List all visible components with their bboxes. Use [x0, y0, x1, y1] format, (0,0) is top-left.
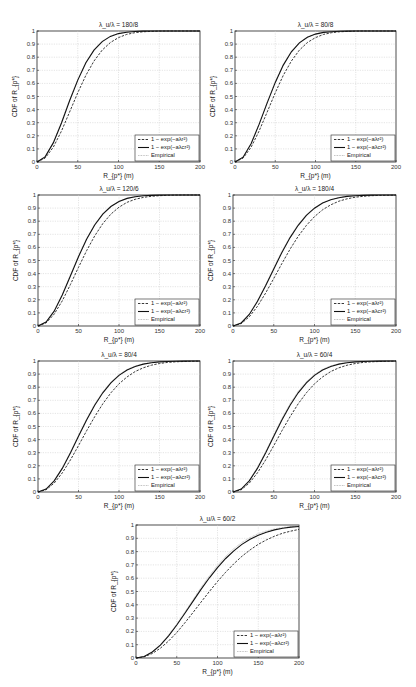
y-tick-label: 0.3: [28, 450, 37, 456]
y-tick-label: 0.9: [27, 41, 36, 47]
x-tick-label: 150: [350, 328, 361, 334]
y-tick-label: 0.7: [223, 397, 232, 403]
y-tick-label: 0.1: [223, 476, 232, 482]
legend-label: 1 − exp(−aλr²): [347, 136, 383, 142]
x-tick-label: 0: [36, 328, 40, 334]
y-tick-label: 0.1: [28, 476, 37, 482]
figure: 05010015020000.10.20.30.40.50.60.70.80.9…: [0, 0, 416, 687]
legend: 1 − exp(−aλr²)1 − exp(−aλcr²)Empirical: [331, 135, 395, 161]
legend-label: 1 − exp(−aλr²): [347, 466, 383, 472]
legend-label: 1 − exp(−aλcr²): [151, 474, 190, 480]
y-tick-label: 1: [228, 192, 232, 198]
x-axis-label: R_{p*} (m): [300, 172, 330, 180]
x-tick-label: 200: [391, 164, 402, 170]
x-tick-label: 0: [36, 494, 40, 500]
legend-label: 1 − exp(−aλcr²): [347, 474, 386, 480]
y-tick-label: 0.2: [28, 463, 37, 469]
y-axis-label: CDF of R_{p*}: [12, 239, 20, 281]
x-tick-label: 100: [113, 164, 124, 170]
legend-label: 1 − exp(−aλcr²): [151, 308, 190, 314]
y-tick-label: 0.1: [225, 146, 234, 152]
legend: 1 − exp(−aλr²)1 − exp(−aλcr²)Empirical: [331, 465, 395, 491]
x-tick-label: 150: [154, 164, 165, 170]
y-tick-label: 0.3: [126, 615, 135, 621]
x-tick-label: 50: [74, 164, 81, 170]
y-tick-label: 1: [33, 192, 37, 198]
x-tick-label: 0: [134, 660, 138, 666]
y-axis-label: CDF of R_{p*}: [11, 75, 19, 117]
x-axis-label: R_{p*} (m): [104, 336, 134, 344]
chart-title: λ_u/λ = 180/4: [295, 185, 335, 193]
y-tick-label: 0.8: [27, 54, 36, 60]
legend-label: 1 − exp(−aλr²): [347, 300, 383, 306]
subplot-2: 05010015020000.10.20.30.40.50.60.70.80.9…: [209, 21, 402, 180]
subplot-1: 05010015020000.10.20.30.40.50.60.70.80.9…: [11, 21, 206, 180]
legend-label: 1 − exp(−aλr²): [151, 466, 187, 472]
legend-label: 1 − exp(−aλr²): [151, 300, 187, 306]
y-tick-label: 0.2: [225, 133, 234, 139]
x-axis-label: R_{p*} (m): [104, 502, 134, 510]
y-tick-label: 0.7: [225, 67, 234, 73]
x-tick-label: 150: [253, 660, 264, 666]
y-tick-label: 0.5: [223, 258, 232, 264]
legend-label: 1 − exp(−aλcr²): [347, 308, 386, 314]
y-tick-label: 1: [32, 28, 36, 34]
y-tick-label: 0.1: [223, 310, 232, 316]
y-axis-label: CDF of R_{p*}: [207, 239, 215, 281]
x-tick-label: 0: [231, 494, 235, 500]
y-tick-label: 0.9: [28, 371, 37, 377]
subplot-6: 05010015020000.10.20.30.40.50.60.70.80.9…: [207, 351, 402, 510]
y-tick-label: 0.6: [28, 410, 37, 416]
x-tick-label: 150: [154, 328, 165, 334]
y-axis-label: CDF of R_{p*}: [12, 405, 20, 447]
y-tick-label: 0.8: [225, 54, 234, 60]
y-tick-label: 0.1: [126, 642, 135, 648]
y-tick-label: 0.7: [27, 67, 36, 73]
y-tick-label: 0.7: [28, 397, 37, 403]
y-tick-label: 0.2: [28, 297, 37, 303]
y-axis-label: CDF of R_{p*}: [110, 570, 118, 612]
x-tick-label: 100: [212, 660, 223, 666]
y-tick-label: 1: [230, 28, 234, 34]
x-tick-label: 150: [351, 164, 362, 170]
x-tick-label: 50: [270, 494, 277, 500]
y-tick-label: 0.4: [225, 107, 234, 113]
legend: 1 − exp(−aλr²)1 − exp(−aλcr²)Empirical: [135, 135, 199, 161]
y-tick-label: 0.2: [223, 297, 232, 303]
chart-title: λ_u/λ = 60/4: [297, 351, 333, 359]
legend-label: Empirical: [347, 482, 371, 488]
y-tick-label: 0.5: [28, 258, 37, 264]
y-tick-label: 0.9: [223, 371, 232, 377]
y-tick-label: 0.6: [223, 244, 232, 250]
y-tick-label: 0.6: [126, 575, 135, 581]
y-tick-label: 1: [33, 358, 37, 364]
legend-label: Empirical: [250, 648, 274, 654]
y-tick-label: 0.8: [223, 218, 232, 224]
x-tick-label: 50: [272, 164, 279, 170]
subplot-3: 05010015020000.10.20.30.40.50.60.70.80.9…: [12, 185, 206, 344]
y-tick-label: 0.8: [28, 384, 37, 390]
y-tick-label: 0.7: [223, 231, 232, 237]
x-tick-label: 200: [195, 164, 206, 170]
x-axis-label: R_{p*} (m): [103, 172, 133, 180]
legend-label: Empirical: [347, 316, 371, 322]
x-tick-label: 100: [309, 328, 320, 334]
y-tick-label: 0.2: [126, 628, 135, 634]
y-tick-label: 0.3: [28, 284, 37, 290]
y-tick-label: 0.9: [28, 205, 37, 211]
x-tick-label: 100: [114, 328, 125, 334]
y-tick-label: 0.4: [223, 437, 232, 443]
y-tick-label: 0.4: [126, 602, 135, 608]
subplot-5: 05010015020000.10.20.30.40.50.60.70.80.9…: [12, 351, 206, 510]
y-tick-label: 0.5: [28, 424, 37, 430]
legend-label: 1 − exp(−aλr²): [250, 632, 286, 638]
chart-title: λ_u/λ = 80/8: [298, 21, 334, 29]
y-tick-label: 0.6: [27, 80, 36, 86]
legend: 1 − exp(−aλr²)1 − exp(−aλcr²)Empirical: [234, 631, 298, 657]
x-axis-label: R_{p*} (m): [202, 668, 232, 676]
chart-title: λ_u/λ = 180/8: [99, 21, 139, 29]
y-tick-label: 0.5: [225, 94, 234, 100]
legend-label: Empirical: [151, 152, 175, 158]
x-axis-label: R_{p*} (m): [299, 336, 329, 344]
x-tick-label: 0: [231, 328, 235, 334]
